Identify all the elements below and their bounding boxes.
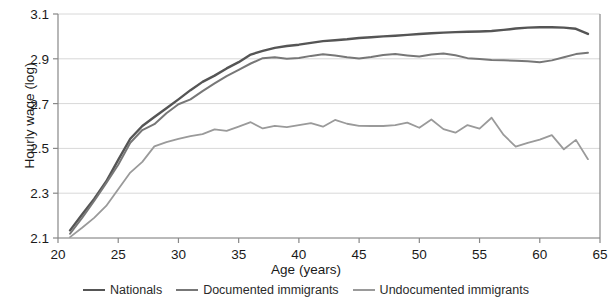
chart-figure: 2.12.32.52.72.93.120253035404550556065 H… bbox=[0, 0, 612, 301]
legend-swatch-nationals bbox=[83, 289, 105, 291]
chart-legend: Nationals Documented immigrants Undocume… bbox=[0, 284, 612, 297]
svg-text:20: 20 bbox=[50, 247, 65, 262]
y-axis-label: Hourly wage (log) bbox=[22, 31, 37, 201]
svg-text:60: 60 bbox=[532, 247, 547, 262]
legend-item-nationals[interactable]: Nationals bbox=[83, 284, 162, 297]
svg-text:25: 25 bbox=[111, 247, 126, 262]
svg-text:65: 65 bbox=[592, 247, 607, 262]
line-chart-plot: 2.12.32.52.72.93.120253035404550556065 bbox=[0, 0, 612, 301]
svg-text:40: 40 bbox=[291, 247, 306, 262]
legend-label-documented-immigrants: Documented immigrants bbox=[203, 284, 338, 297]
axis-lines bbox=[58, 14, 600, 238]
legend-swatch-documented-immigrants bbox=[176, 289, 198, 291]
svg-text:50: 50 bbox=[412, 247, 427, 262]
legend-item-undocumented-immigrants[interactable]: Undocumented immigrants bbox=[353, 284, 529, 297]
svg-text:3.1: 3.1 bbox=[30, 7, 49, 22]
legend-label-undocumented-immigrants: Undocumented immigrants bbox=[380, 284, 529, 297]
svg-text:55: 55 bbox=[472, 247, 487, 262]
svg-text:30: 30 bbox=[171, 247, 186, 262]
legend-swatch-undocumented-immigrants bbox=[353, 289, 375, 291]
legend-label-nationals: Nationals bbox=[110, 284, 162, 297]
svg-text:35: 35 bbox=[231, 247, 246, 262]
legend-item-documented-immigrants[interactable]: Documented immigrants bbox=[176, 284, 338, 297]
svg-text:2.1: 2.1 bbox=[30, 231, 49, 246]
tick-labels: 2.12.32.52.72.93.120253035404550556065 bbox=[30, 7, 607, 262]
grid-lines bbox=[58, 14, 600, 238]
x-axis-label: Age (years) bbox=[0, 262, 612, 277]
svg-text:45: 45 bbox=[352, 247, 367, 262]
axis-ticks bbox=[53, 14, 600, 243]
